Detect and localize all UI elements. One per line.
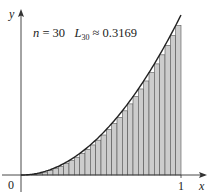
riemann-rect (160, 55, 165, 175)
annotation: n = 30 L30 ≈ 0.3169 (33, 26, 137, 42)
riemann-rect (144, 81, 149, 175)
riemann-rect (85, 149, 90, 175)
riemann-rect (112, 124, 117, 175)
riemann-rect (170, 36, 175, 175)
riemann-rect (176, 25, 181, 175)
riemann-rect (133, 97, 138, 175)
riemann-rect (48, 171, 53, 175)
riemann-rect (53, 169, 58, 175)
riemann-rect (149, 73, 154, 175)
riemann-rect (138, 89, 143, 175)
riemann-rect (96, 140, 101, 175)
riemann-rect (128, 104, 133, 175)
riemann-rect (74, 157, 79, 175)
riemann-rect (165, 45, 170, 175)
l-value: ≈ 0.3169 (93, 26, 137, 40)
riemann-rect (58, 166, 63, 175)
riemann-rect (69, 161, 74, 175)
riemann-rect (80, 153, 85, 175)
riemann-rect (101, 135, 106, 175)
riemann-rect (106, 129, 111, 175)
x-tick-0: 0 (8, 178, 14, 193)
n-label: n (33, 26, 39, 40)
x-axis-label: x (199, 179, 204, 193)
riemann-rect (64, 164, 69, 175)
riemann-rect (117, 117, 122, 175)
riemann-rect (154, 64, 159, 175)
y-axis-label: y (9, 7, 14, 22)
n-value: = 30 (42, 26, 65, 40)
riemann-rect (122, 111, 127, 175)
riemann-rect (90, 145, 95, 175)
l-subscript: 30 (81, 33, 89, 42)
x-tick-1: 1 (178, 179, 184, 193)
